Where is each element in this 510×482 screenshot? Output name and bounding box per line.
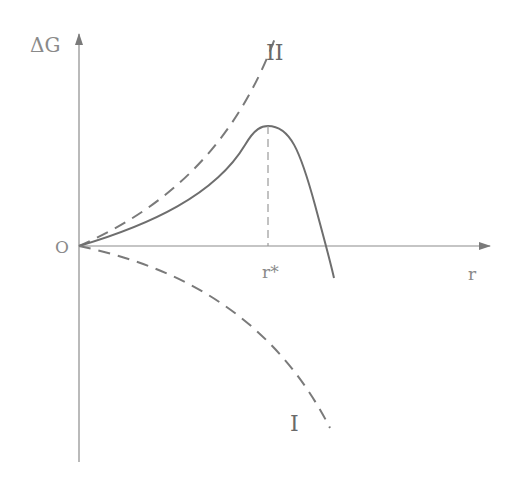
curve-II-label: II — [266, 40, 283, 65]
curve-I-label: I — [290, 411, 299, 436]
x-axis-label: r — [468, 264, 477, 284]
curve-I — [79, 246, 330, 428]
y-axis-label: ΔG — [30, 33, 60, 57]
critical-radius-label: r* — [262, 262, 279, 282]
gibbs-energy-diagram: ΔG II O r* r I — [0, 0, 510, 482]
curve-total — [79, 126, 334, 278]
origin-label: O — [55, 237, 69, 257]
curve-II — [79, 38, 275, 246]
